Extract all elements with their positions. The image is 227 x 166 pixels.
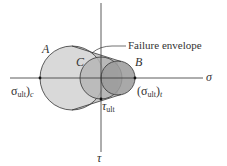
- label-c: C: [76, 55, 85, 69]
- label-a: A: [41, 42, 50, 56]
- shear-strength-label: τult: [102, 99, 116, 114]
- point-tension: [134, 77, 137, 80]
- tension-strength-label: (σult)t: [137, 84, 163, 99]
- mohr-failure-diagram: A C B Failure envelope σ τ σult)c (σult)…: [0, 0, 227, 166]
- envelope-leader: [92, 46, 126, 53]
- tau-axis-label: τ: [97, 151, 102, 165]
- sigma-axis-label: σ: [206, 70, 213, 84]
- compression-strength-label: σult)c: [11, 84, 34, 99]
- failure-envelope-label: Failure envelope: [128, 39, 202, 51]
- point-compression: [39, 77, 42, 80]
- label-b: B: [135, 55, 143, 69]
